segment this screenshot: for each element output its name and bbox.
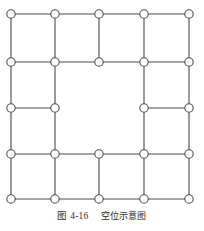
node-layer	[7, 10, 193, 203]
figure-caption-number: 图 4-16	[57, 211, 88, 221]
lattice-diagram	[0, 0, 204, 210]
lattice-node	[51, 195, 59, 203]
lattice-node	[95, 10, 103, 18]
edge-layer	[11, 14, 189, 199]
lattice-node	[140, 58, 148, 66]
lattice-node	[185, 195, 193, 203]
lattice-node	[7, 104, 15, 112]
lattice-node	[140, 150, 148, 158]
lattice-node	[140, 10, 148, 18]
lattice-node	[51, 150, 59, 158]
lattice-node	[51, 10, 59, 18]
lattice-node	[185, 10, 193, 18]
lattice-node	[95, 195, 103, 203]
lattice-node	[7, 195, 15, 203]
lattice-node	[51, 104, 59, 112]
lattice-node	[7, 10, 15, 18]
lattice-node	[140, 195, 148, 203]
figure-container: 图 4-16 空位示意图	[0, 0, 204, 231]
figure-caption-text: 空位示意图	[101, 211, 147, 221]
lattice-node	[185, 58, 193, 66]
lattice-node	[185, 104, 193, 112]
lattice-node	[7, 150, 15, 158]
lattice-node	[51, 58, 59, 66]
lattice-node	[140, 104, 148, 112]
lattice-node	[7, 58, 15, 66]
lattice-node	[185, 150, 193, 158]
figure-caption: 图 4-16 空位示意图	[0, 208, 204, 222]
lattice-node	[95, 58, 103, 66]
lattice-node	[95, 150, 103, 158]
